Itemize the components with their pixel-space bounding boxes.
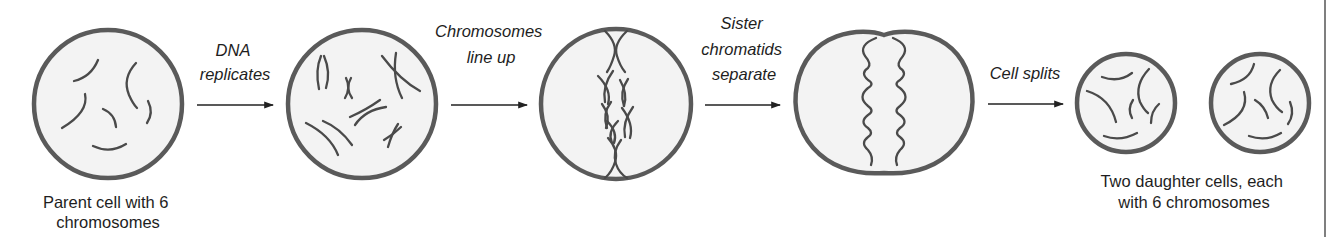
transition-label: Cell splits (990, 64, 1061, 82)
transition-cell-splits: Cell splits (988, 64, 1063, 104)
transition-label: Chromosomes line up (435, 22, 547, 66)
parent-cell-caption: Parent cell with 6 chromosomes (43, 193, 173, 231)
mitosis-diagram: Parent cell with 6 chromosomes DNA repli… (0, 0, 1336, 237)
transition-label: Sister chromatids separate (701, 14, 786, 83)
parent-cell: Parent cell with 6 chromosomes (34, 30, 182, 231)
transition-chromosomes-line-up: Chromosomes line up (435, 22, 547, 105)
transition-label: DNA replicates (200, 41, 271, 83)
parent-cell-membrane (34, 30, 182, 178)
metaphase-cell (541, 29, 691, 179)
anaphase-cell-membrane (796, 32, 973, 174)
daughter-cells-caption: Two daughter cells, each with 6 chromoso… (1100, 172, 1287, 211)
daughter-cell-left (1077, 54, 1175, 152)
transition-sister-chromatids-separate: Sister chromatids separate (701, 14, 786, 105)
transition-dna-replicates: DNA replicates (197, 41, 273, 105)
anaphase-cell (796, 32, 973, 174)
replicated-cell (288, 30, 436, 178)
daughter-cells: Two daughter cells, each with 6 chromoso… (1077, 54, 1309, 211)
replicated-cell-membrane (288, 30, 436, 178)
daughter-cell-right (1211, 54, 1309, 152)
